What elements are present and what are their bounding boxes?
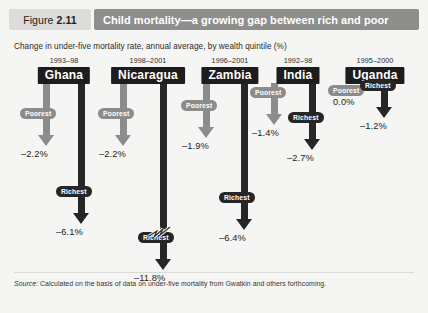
source-text: Calculated on the basis of data on under… [40,280,326,287]
pill-ghana-richest: Richest [56,186,92,197]
arrow-head [73,213,89,224]
axis-break-icon [148,224,172,242]
source-prefix: Source: [14,280,38,287]
pill-india-richest: Richest [288,112,324,123]
value-nicaragua-poorest: –2.2% [99,149,126,159]
figure-title: Child mortality—a growing gap between ri… [103,14,389,26]
value-ghana-poorest: –2.2% [21,149,48,159]
country-label-nicaragua: Nicaragua [111,67,185,84]
arrow-head [266,114,282,125]
pill-uganda-poorest: Poorest [328,85,364,96]
country-label-india: India [276,67,319,84]
period-label-nicaragua: 1998–2001 [130,56,167,65]
pill-zambia-richest: Richest [219,192,255,203]
arrow-head [304,139,320,150]
pill-india-poorest: Poorest [250,87,286,98]
arrow-head [155,259,171,270]
arrow-head [198,127,214,138]
value-zambia-poorest: –1.9% [182,141,209,151]
pill-ghana-poorest: Poorest [20,108,56,119]
pill-uganda-richest: Richest [360,80,396,91]
pill-zambia-poorest: Poorest [181,100,217,111]
arrow-head [38,135,54,146]
arrow-head [236,219,252,230]
period-label-zambia: 1996–2001 [212,56,249,65]
arrow-head [376,107,392,118]
source-note: Source: Calculated on the basis of data … [14,280,326,287]
period-label-india: 1992–98 [284,56,313,65]
country-label-ghana: Ghana [38,67,90,84]
figure-container: Figure 2.11 Child mortality—a growing ga… [0,0,428,313]
country-label-zambia: Zambia [201,67,258,84]
arrow-head [115,135,131,146]
figure-title-bar: Child mortality—a growing gap between ri… [94,9,419,30]
figure-tag-label: Figure [23,14,53,26]
value-india-richest: –2.7% [287,153,314,163]
value-india-poorest: –1.4% [252,128,279,138]
value-uganda-poorest: 0.0% [333,97,355,107]
value-uganda-richest: –1.2% [360,121,387,131]
chart-panel: 1993–98 Ghana Poorest –2.2% Richest –6.1… [0,56,428,261]
figure-tag-number: 2.11 [57,14,77,26]
arrow-shaft [309,83,316,139]
period-label-ghana: 1993–98 [50,56,79,65]
value-zambia-richest: –6.4% [219,233,246,243]
value-ghana-richest: –6.1% [56,227,83,237]
footer-divider [14,272,414,273]
figure-subtitle: Change in under-five mortality rate, ann… [14,42,287,51]
figure-tag: Figure 2.11 [9,9,91,30]
period-label-uganda: 1995–2000 [357,56,394,65]
figure-header: Figure 2.11 Child mortality—a growing ga… [9,9,419,30]
pill-nicaragua-poorest: Poorest [98,108,134,119]
